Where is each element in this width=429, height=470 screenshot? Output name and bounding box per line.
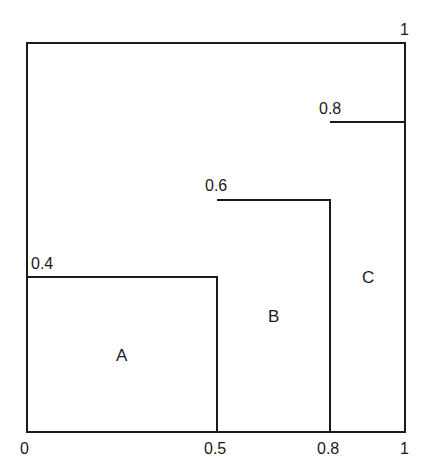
x-label-1: 1 [400,441,409,457]
height-label-c: 0.8 [319,101,341,117]
region-label-b: B [268,308,279,325]
x-label-0-8: 0.8 [317,441,339,457]
height-label-b: 0.6 [205,178,227,194]
region-label-a: A [116,347,127,364]
region-label-c: C [362,269,374,286]
height-label-a: 0.4 [31,256,53,272]
x-label-0-5: 0.5 [204,441,226,457]
x-label-0: 0 [20,441,29,457]
corner-label: 1 [400,22,409,38]
diagram-canvas [0,0,429,470]
